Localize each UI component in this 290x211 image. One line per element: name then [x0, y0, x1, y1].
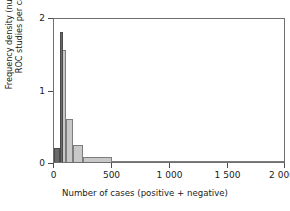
x-tick-mark-2000 — [284, 163, 285, 168]
x-tick-mark-500 — [111, 163, 112, 168]
y-tick-label-1: 1 — [32, 86, 45, 96]
x-tick-label-500: 500 — [103, 170, 120, 180]
histogram-bar — [66, 119, 73, 163]
histogram-bar — [60, 32, 63, 163]
plot-area — [53, 18, 285, 163]
histogram-figure: Frequency density (number of ROC studies… — [0, 0, 290, 211]
y-axis-title-line-1: Frequency density (number of — [4, 0, 14, 102]
histogram-bar — [112, 161, 170, 162]
histogram-bar — [73, 145, 83, 162]
y-axis-title: Frequency density (number of ROC studies… — [4, 0, 25, 102]
y-axis-title-line-2: ROC studies per case) — [14, 0, 24, 102]
x-tick-label-1000: 1 000 — [157, 170, 183, 180]
y-tick-label-2: 2 — [32, 13, 45, 23]
histogram-bar — [170, 161, 284, 162]
bars-container — [54, 19, 284, 162]
x-tick-mark-1500 — [227, 163, 228, 168]
histogram-bar — [83, 157, 112, 162]
x-tick-label-0: 0 — [51, 170, 57, 180]
x-tick-mark-1000 — [169, 163, 170, 168]
x-tick-label-2000: 2 000 — [269, 170, 290, 180]
x-axis-title: Number of cases (positive + negative) — [0, 188, 290, 198]
y-tick-label-0: 0 — [32, 158, 45, 168]
x-tick-label-1500: 1 500 — [215, 170, 241, 180]
x-tick-mark-0 — [53, 163, 54, 168]
